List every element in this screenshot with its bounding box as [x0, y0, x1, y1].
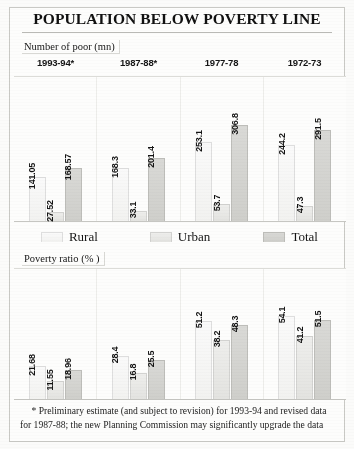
bar-urban-0: 11.55 [47, 381, 64, 399]
legend-label: Total [291, 229, 318, 245]
bar-rural-2: 253.1 [195, 142, 212, 221]
bar-value-label: 21.68 [27, 354, 37, 376]
bar-value-label: 51.2 [194, 311, 204, 328]
bar-value-label: 54.1 [277, 307, 287, 324]
bar-total-2: 48.3 [231, 325, 248, 399]
bar-group-0: 141.0527.52168.57 [14, 77, 97, 221]
bar-group-2: 253.153.7306.8 [181, 77, 264, 221]
legend-label: Rural [69, 229, 98, 245]
bar-urban-0: 27.52 [47, 212, 64, 221]
urban-swatch [150, 232, 172, 242]
bar-rural-1: 28.4 [112, 356, 129, 400]
bar-value-label: 141.05 [27, 163, 37, 189]
year-label-0: 1993-94* [14, 57, 97, 73]
top-chart-caption: Number of poor (mn) [22, 40, 120, 54]
bar-value-label: 47.3 [295, 197, 305, 214]
legend-label: Urban [178, 229, 211, 245]
bottom-chart-groups: 21.6811.5518.9628.416.825.551.238.248.35… [14, 269, 346, 399]
bar-urban-1: 16.8 [130, 373, 147, 399]
bar-value-label: 11.55 [45, 370, 55, 391]
bar-value-label: 201.4 [146, 146, 156, 168]
bar-value-label: 53.7 [212, 195, 222, 212]
footnote: * Preliminary estimate (and subject to r… [16, 404, 342, 431]
bottom-chart-caption: Poverty ratio (% ) [22, 252, 105, 266]
bar-urban-3: 41.2 [296, 336, 313, 399]
bar-cluster: 244.247.3291.5 [278, 77, 331, 221]
bar-value-label: 16.8 [128, 364, 138, 381]
bar-rural-0: 21.68 [29, 366, 46, 399]
bar-value-label: 253.1 [194, 130, 204, 152]
bar-rural-2: 51.2 [195, 321, 212, 400]
page-title: POPULATION BELOW POVERTY LINE [0, 10, 354, 28]
bar-group-3: 54.141.251.5 [264, 269, 346, 399]
bar-value-label: 33.1 [128, 201, 138, 218]
top-chart-groups: 141.0527.52168.57168.333.1201.4253.153.7… [14, 77, 346, 221]
bar-cluster: 168.333.1201.4 [112, 77, 165, 221]
bar-value-label: 28.4 [110, 346, 120, 363]
chart-legend: RuralUrbanTotal [14, 226, 346, 248]
bar-value-label: 48.3 [230, 316, 240, 333]
bar-value-label: 41.2 [295, 326, 305, 343]
bar-value-label: 244.2 [277, 133, 287, 155]
bar-total-3: 51.5 [314, 320, 331, 399]
bar-total-1: 25.5 [148, 360, 165, 399]
bar-urban-2: 38.2 [213, 340, 230, 399]
bar-cluster: 253.153.7306.8 [195, 77, 248, 221]
number-of-poor-chart: 141.0527.52168.57168.333.1201.4253.153.7… [14, 76, 346, 222]
bar-total-0: 168.57 [65, 168, 82, 221]
bar-value-label: 25.5 [146, 351, 156, 368]
bar-cluster: 54.141.251.5 [278, 269, 331, 399]
bar-value-label: 18.96 [63, 358, 73, 380]
footnote-line-1: * Preliminary estimate (and subject to r… [32, 405, 327, 416]
bar-total-0: 18.96 [65, 370, 82, 399]
bar-total-2: 306.8 [231, 125, 248, 221]
poverty-chart-page: POPULATION BELOW POVERTY LINE Number of … [0, 0, 354, 449]
bar-value-label: 38.2 [212, 331, 222, 348]
total-swatch [263, 232, 285, 242]
bar-urban-3: 47.3 [296, 206, 313, 221]
bar-group-0: 21.6811.5518.96 [14, 269, 97, 399]
bar-rural-3: 54.1 [278, 316, 295, 399]
year-label-2: 1977-78 [180, 57, 263, 73]
bar-value-label: 168.57 [63, 154, 73, 180]
bar-rural-0: 141.05 [29, 177, 46, 221]
bar-value-label: 51.5 [313, 311, 323, 328]
bar-urban-2: 53.7 [213, 204, 230, 221]
bar-value-label: 168.3 [110, 157, 120, 179]
year-label-1: 1987-88* [97, 57, 180, 73]
bar-group-1: 28.416.825.5 [97, 269, 180, 399]
bar-group-2: 51.238.248.3 [181, 269, 264, 399]
bar-cluster: 51.238.248.3 [195, 269, 248, 399]
bar-value-label: 306.8 [230, 113, 240, 135]
bar-total-1: 201.4 [148, 158, 165, 221]
bar-cluster: 21.6811.5518.96 [29, 269, 82, 399]
bar-total-3: 291.5 [314, 130, 331, 221]
legend-item-rural: Rural [14, 229, 125, 245]
bar-rural-1: 168.3 [112, 168, 129, 221]
legend-item-urban: Urban [125, 229, 236, 245]
rural-swatch [41, 232, 63, 242]
legend-item-total: Total [235, 229, 346, 245]
year-header-row: 1993-94*1987-88*1977-781972-73 [14, 57, 346, 73]
bar-group-3: 244.247.3291.5 [264, 77, 346, 221]
bar-urban-1: 33.1 [130, 211, 147, 221]
bar-cluster: 141.0527.52168.57 [29, 77, 82, 221]
year-label-3: 1972-73 [263, 57, 346, 73]
bar-cluster: 28.416.825.5 [112, 269, 165, 399]
footnote-line-2: for 1987-88; the new Planning Commission… [16, 418, 342, 432]
bar-value-label: 27.52 [45, 201, 55, 223]
bar-group-1: 168.333.1201.4 [97, 77, 180, 221]
bar-rural-3: 244.2 [278, 145, 295, 221]
poverty-ratio-chart: 21.6811.5518.9628.416.825.551.238.248.35… [14, 268, 346, 400]
bar-value-label: 291.5 [313, 118, 323, 140]
